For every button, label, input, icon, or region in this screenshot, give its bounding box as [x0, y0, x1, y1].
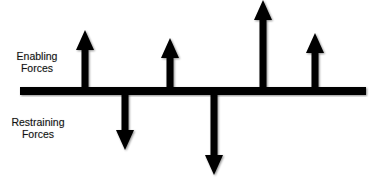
force-field-diagram — [0, 0, 381, 185]
enabling-force-arrow-icon — [161, 38, 179, 88]
enabling-force-arrow-icon — [254, 0, 272, 88]
restraining-force-arrow-icon — [116, 94, 134, 150]
restraining-force-arrow-icon — [205, 94, 223, 175]
baseline-bar — [20, 87, 366, 95]
enabling-force-arrow-icon — [306, 33, 324, 88]
enabling-force-arrow-icon — [76, 30, 94, 88]
